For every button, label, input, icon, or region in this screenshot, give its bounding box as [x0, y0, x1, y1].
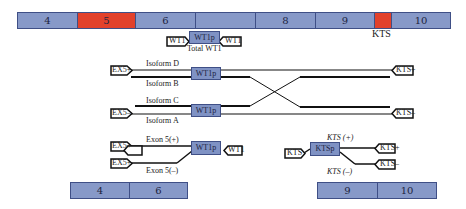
exon-4-bottom: 4	[70, 182, 130, 199]
exon5-plus-label: Exon 5(+)	[146, 135, 179, 144]
exon5-end-tag: WT1	[228, 145, 244, 154]
exon-9-bottom: 9	[317, 182, 378, 199]
kts-plus-tag: KTS+	[380, 143, 400, 152]
exon5-minus-label: Exon 5(–)	[146, 166, 178, 175]
isoform-bottom-promoter: WT1p	[191, 104, 221, 117]
isoform-c-label: Isoform C	[146, 96, 179, 105]
exon-6-bottom: 6	[129, 182, 188, 199]
exon5-minus-tag: EX5+	[112, 158, 131, 167]
isoform-top-promoter: WT1p	[191, 67, 221, 80]
isoform-b-label: Isoform B	[146, 79, 179, 88]
total-wt1-promoter: WT1p	[189, 31, 220, 44]
kts-minus-tag: KTS–	[380, 159, 399, 168]
wt1-isoform-diagram: 4 5 6 8 9 10 KTS	[0, 0, 466, 209]
ex5-minus-tag: EX5–	[112, 108, 131, 117]
kts-plus-end-tag: KTS+	[396, 65, 416, 74]
isoform-a-label: Isoform A	[146, 116, 179, 125]
total-wt1-left-tag: WT1	[169, 36, 185, 45]
kts-plus-label: KTS (+)	[327, 133, 354, 142]
kts-minus-end-tag: KTS–	[396, 108, 415, 117]
exon5-plus-tag: EX5+	[112, 141, 131, 150]
total-wt1-caption: Total WT1	[187, 44, 222, 53]
kts-minus-label: KTS (–)	[327, 167, 352, 176]
kts-promoter: KTSp	[310, 142, 340, 156]
kts-start-tag: KTS	[287, 148, 302, 157]
isoform-d-label: Isoform D	[146, 59, 179, 68]
total-wt1-right-tag: WT1	[225, 36, 241, 45]
connector-lines	[0, 0, 466, 209]
exon-10-bottom: 10	[377, 182, 437, 199]
ex5-plus-tag: EX5+	[112, 65, 131, 74]
exon5-promoter: WT1p	[191, 141, 221, 155]
